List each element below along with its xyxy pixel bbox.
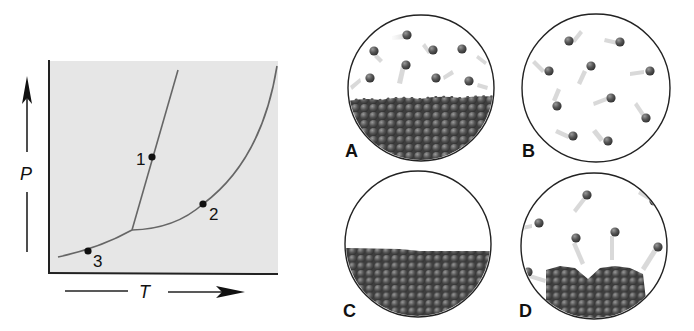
x-axis-line	[48, 273, 278, 274]
panel-d-label: D	[519, 301, 532, 321]
solid-d	[546, 266, 646, 330]
figure-canvas: 1 2 3 P T	[0, 0, 694, 331]
pressure-axis-arrow: P	[20, 76, 32, 252]
phase-diagram: 1 2 3 P T	[20, 60, 278, 302]
point-3-label: 3	[93, 252, 102, 271]
point-1-label: 1	[136, 150, 145, 169]
panel-c-label: C	[343, 301, 356, 321]
point-2-label: 2	[209, 205, 218, 224]
panel-b: B	[522, 14, 670, 162]
panel-b-label: B	[522, 141, 535, 161]
panel-a: A	[340, 15, 500, 170]
panel-a-label: A	[345, 141, 358, 161]
plot-area	[49, 61, 278, 273]
panel-d: D	[519, 173, 667, 330]
x-axis-label: T	[139, 282, 152, 302]
panel-c: C	[340, 171, 500, 330]
temperature-axis-arrow: T	[65, 282, 245, 302]
point-2-marker	[199, 200, 206, 207]
point-1-marker	[148, 153, 155, 160]
y-axis-label: P	[20, 164, 32, 184]
point-3-marker	[84, 247, 91, 254]
